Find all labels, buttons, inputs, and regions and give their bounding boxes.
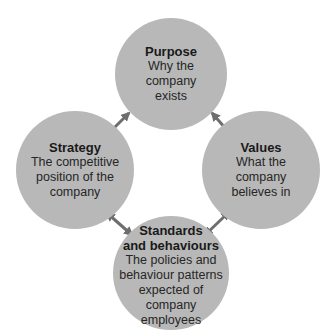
node-title: and behaviours xyxy=(123,238,219,253)
node-strategy: Strategy The competitive position of the… xyxy=(16,111,134,229)
node-desc-line: position of the xyxy=(36,170,114,185)
node-desc-line: company xyxy=(50,185,101,200)
node-desc-line: company xyxy=(236,170,287,185)
node-desc-line: What the xyxy=(236,155,286,170)
node-desc-line: The policies and xyxy=(125,253,216,268)
node-title: Values xyxy=(240,140,281,155)
node-title: Standards xyxy=(139,223,203,238)
node-title: Purpose xyxy=(145,44,197,59)
node-desc-line: exists xyxy=(155,89,187,104)
node-title: Strategy xyxy=(49,140,101,155)
node-desc-line: company xyxy=(146,74,197,89)
node-desc-line: The competitive xyxy=(31,155,119,170)
node-desc-line: expected of company xyxy=(113,283,229,313)
node-desc-line: behaviour patterns xyxy=(119,268,223,283)
node-desc-line: employees xyxy=(141,313,201,328)
node-desc-line: Why the xyxy=(148,59,194,74)
node-desc-line: believes in xyxy=(231,185,290,200)
node-purpose: Purpose Why the company exists xyxy=(115,18,227,130)
node-standards: Standards and behaviours The policies an… xyxy=(113,216,229,330)
node-values: Values What the company believes in xyxy=(202,111,320,229)
